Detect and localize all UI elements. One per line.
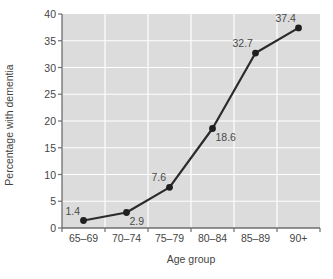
data-point-label: 2.9 [130,216,145,227]
data-point-label: 32.7 [233,38,253,49]
x-axis-title: Age group [62,252,320,266]
x-axis-tick-label: 75–79 [148,231,191,245]
dementia-by-age-line-chart: Percentage with dementia 051015202530354… [0,0,333,279]
data-point-label: 18.6 [216,132,236,143]
x-axis-tick-label: 80–84 [191,231,234,245]
x-axis-tick-label: 65–69 [62,231,105,245]
x-axis-tick-label: 90+ [277,231,320,245]
data-point-label: 1.4 [66,206,81,217]
data-point-label: 37.4 [276,13,296,24]
x-axis-tick-labels: 65–6970–7475–7980–8485–8990+ [62,231,320,247]
x-axis-tick-label: 70–74 [105,231,148,245]
data-point-label: 7.6 [152,172,167,183]
x-axis-tick-label: 85–89 [234,231,277,245]
